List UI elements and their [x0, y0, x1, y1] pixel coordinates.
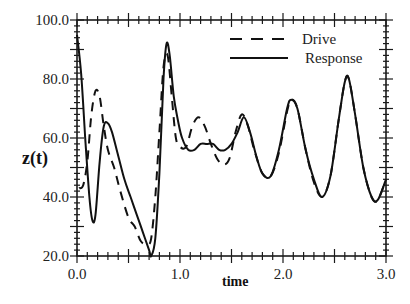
y-tick-label: 100.0: [35, 12, 69, 28]
y-tick-label: 60.0: [43, 130, 69, 146]
y-tick-label: 40.0: [43, 189, 69, 205]
legend-label-response: Response: [305, 50, 363, 66]
y-axis-title: z(t): [22, 148, 48, 169]
line-chart: 20.040.060.080.0100.0 0.01.02.03.0 z(t) …: [0, 0, 410, 304]
x-tick-label: 1.0: [171, 266, 190, 282]
x-tick-label: 3.0: [377, 266, 396, 282]
y-tick-label: 80.0: [43, 71, 69, 87]
x-axis-title: time: [222, 274, 248, 289]
legend-label-drive: Drive: [302, 31, 336, 47]
x-tick-label: 2.0: [274, 266, 293, 282]
y-tick-label: 20.0: [43, 248, 69, 264]
x-tick-label: 0.0: [68, 266, 87, 282]
